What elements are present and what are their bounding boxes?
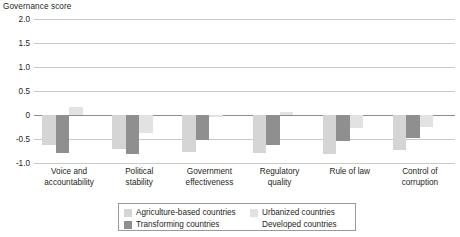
bar (266, 115, 280, 145)
legend-label: Agriculture-based countries (136, 208, 236, 217)
bar-group: Rule of law (315, 19, 385, 163)
legend-item: Transforming countries (124, 219, 250, 230)
bar (112, 115, 126, 149)
y-axis-tick-label: 0.5 (0, 87, 30, 96)
bar-group: Voice andaccountability (34, 19, 104, 163)
legend-swatch (124, 209, 132, 217)
legend-label: Urbanized countries (262, 208, 335, 217)
x-axis-category-label: Governmenteffectiveness (186, 167, 234, 188)
x-axis-category-label: Regulatoryquality (260, 167, 300, 188)
y-axis-tick-label: 1.0 (0, 63, 30, 72)
legend-label: Developed countries (262, 220, 337, 229)
y-axis-tick-label: -1.0 (0, 159, 30, 168)
y-axis-tick-label: 1.5 (0, 39, 30, 48)
bar (420, 115, 434, 127)
x-axis-category-label: Politicalstability (125, 167, 153, 188)
gridline: -1.0 (34, 163, 455, 164)
bar (196, 115, 210, 140)
legend-label: Transforming countries (136, 220, 219, 229)
bar (126, 115, 140, 154)
plot-area: 2.01.51.00.50-0.5-1.0Voice andaccountabi… (34, 19, 455, 163)
bar (406, 115, 420, 138)
bar (182, 115, 196, 152)
bar-group: Control ofcorruption (385, 19, 455, 163)
x-axis-category-label: Voice andaccountability (44, 167, 94, 188)
y-axis-tick-label: 2.0 (0, 15, 30, 24)
bar (350, 115, 364, 128)
y-axis-tick-label: 0 (0, 111, 30, 120)
legend-item: Urbanized countries (250, 207, 352, 218)
chart-legend: Agriculture-based countriesUrbanized cou… (118, 203, 356, 231)
bar (323, 115, 337, 154)
bar (42, 115, 56, 145)
y-axis-tick-label: -0.5 (0, 135, 30, 144)
bar (280, 112, 294, 115)
bar (393, 115, 407, 150)
bar (336, 115, 350, 141)
y-axis-title: Governance score (3, 2, 72, 11)
x-axis-category-label: Rule of law (329, 167, 370, 178)
bar (69, 107, 83, 115)
legend-swatch (250, 221, 258, 229)
legend-swatch (124, 221, 132, 229)
bar (253, 115, 267, 153)
bar-group: Politicalstability (104, 19, 174, 163)
bar-group: Governmenteffectiveness (174, 19, 244, 163)
legend-item: Developed countries (250, 219, 352, 230)
legend-swatch (250, 209, 258, 217)
bar (139, 115, 153, 133)
bar (209, 115, 223, 117)
bar (56, 115, 70, 153)
x-axis-category-label: Control ofcorruption (402, 167, 438, 188)
legend-item: Agriculture-based countries (124, 207, 250, 218)
bar-group: Regulatoryquality (245, 19, 315, 163)
governance-score-bar-chart: Governance score 2.01.51.00.50-0.5-1.0Vo… (0, 0, 460, 237)
